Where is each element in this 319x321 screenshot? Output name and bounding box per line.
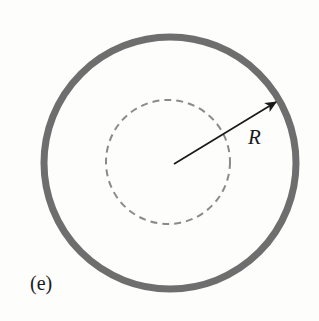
panel-label: (e): [30, 272, 52, 295]
figure-panel-e: R (e): [0, 0, 319, 321]
radius-label: R: [247, 125, 261, 149]
circle-radius-diagram: R (e): [0, 0, 319, 321]
